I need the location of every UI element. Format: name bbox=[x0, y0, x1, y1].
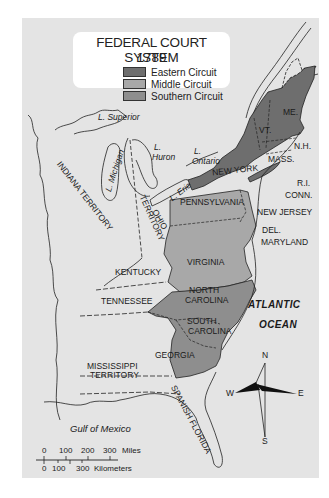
label-lake-ontario-2: Ontario bbox=[192, 157, 220, 166]
legend-item-southern: Southern Circuit bbox=[123, 90, 223, 102]
legend-item-middle: Middle Circuit bbox=[123, 78, 212, 90]
scale-km-unit: Kilometers bbox=[94, 465, 132, 473]
scale-km-0: 0 bbox=[42, 465, 46, 473]
legend-label: Southern Circuit bbox=[151, 91, 223, 102]
label-atlantic-ocean-1: ATLANTIC bbox=[248, 300, 300, 310]
label-tennessee: TENNESSEE bbox=[101, 297, 153, 306]
southern-swatch bbox=[123, 91, 146, 101]
compass-s: S bbox=[262, 437, 268, 446]
label-lake-huron-2: Huron bbox=[152, 153, 175, 162]
label-mississippi-territory-2: TERRITORY bbox=[90, 371, 139, 380]
label-lake-ontario-1: L. bbox=[194, 147, 201, 156]
label-kentucky: KENTUCKY bbox=[115, 268, 161, 277]
legend: FEDERAL COURT SYSTEM 1789 Eastern Circui… bbox=[73, 32, 230, 88]
label-rhode-island: R.I. bbox=[297, 179, 310, 188]
label-connecticut: CONN. bbox=[285, 191, 312, 200]
legend-item-eastern: Eastern Circuit bbox=[123, 66, 217, 78]
compass-e: E bbox=[298, 389, 304, 398]
label-maine: ME. bbox=[283, 108, 298, 117]
label-massachusetts: MASS. bbox=[268, 155, 294, 164]
compass-n: N bbox=[262, 351, 268, 360]
scale-mi-200: 200 bbox=[81, 447, 94, 455]
label-gulf-of-mexico: Gulf of Mexico bbox=[70, 424, 131, 434]
legend-year: 1789 bbox=[73, 50, 230, 65]
scale-mi-100: 100 bbox=[59, 447, 72, 455]
label-virginia: VIRGINIA bbox=[187, 258, 224, 267]
label-pennsylvania: PENNSYLVANIA bbox=[180, 198, 244, 207]
legend-label: Middle Circuit bbox=[151, 79, 212, 90]
label-north-carolina-2: CAROLINA bbox=[185, 296, 228, 305]
label-south-carolina-2: CAROLINA bbox=[188, 327, 231, 336]
label-lake-superior: L. Superior bbox=[98, 113, 140, 122]
scale-mi-300: 300 bbox=[103, 447, 116, 455]
compass-w: W bbox=[226, 389, 234, 398]
label-lake-huron-1: L. bbox=[154, 143, 161, 152]
legend-label: Eastern Circuit bbox=[151, 67, 217, 78]
eastern-swatch bbox=[123, 67, 146, 77]
label-new-hampshire: N.H. bbox=[294, 142, 311, 151]
label-new-jersey: NEW JERSEY bbox=[257, 208, 312, 217]
scale-km-100: 100 bbox=[52, 465, 65, 473]
label-vermont: VT. bbox=[259, 126, 271, 135]
label-delaware: DEL. bbox=[262, 226, 281, 235]
label-maryland: MARYLAND bbox=[261, 238, 308, 247]
scale-mi-0: 0 bbox=[42, 447, 46, 455]
scale-miles-unit: Miles bbox=[122, 447, 141, 455]
label-atlantic-ocean-2: OCEAN bbox=[259, 320, 297, 330]
middle-swatch bbox=[123, 79, 146, 89]
label-north-carolina-1: NORTH bbox=[189, 286, 219, 295]
label-south-carolina-1: SOUTH bbox=[187, 317, 217, 326]
label-georgia: GEORGIA bbox=[155, 351, 195, 360]
scale-km-300: 300 bbox=[76, 465, 89, 473]
